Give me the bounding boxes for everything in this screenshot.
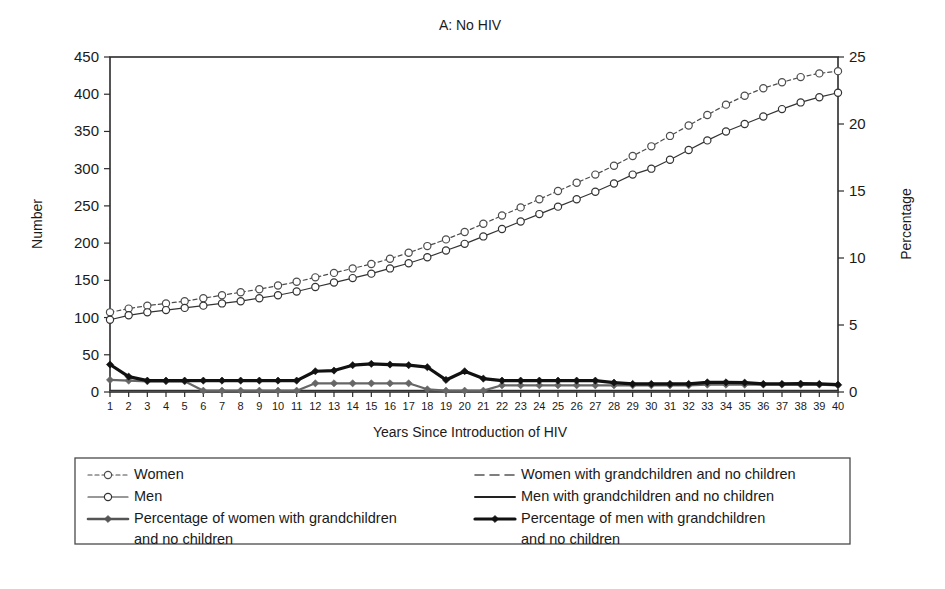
data-point-marker: [256, 286, 263, 293]
data-point-marker: [461, 240, 468, 247]
data-point-marker: [648, 165, 655, 172]
data-point-marker: [218, 300, 225, 307]
y-tick-label: 250: [74, 197, 99, 214]
x-tick-label: 6: [200, 400, 206, 412]
x-tick-label: 7: [219, 400, 225, 412]
x-tick-label: 28: [608, 400, 620, 412]
data-point-marker: [461, 228, 468, 235]
legend-label: Women with grandchildren and no children: [521, 466, 796, 482]
data-point-marker: [162, 307, 169, 314]
data-point-marker: [274, 282, 281, 289]
y-tick-label-right: 0: [849, 383, 857, 400]
data-point-marker: [144, 309, 151, 316]
x-tick-label: 5: [182, 400, 188, 412]
data-point-marker: [480, 233, 487, 240]
y-tick-label: 300: [74, 160, 99, 177]
x-tick-label: 34: [720, 400, 732, 412]
data-point-marker: [610, 162, 617, 169]
x-tick-label: 26: [571, 400, 583, 412]
data-point-marker: [293, 288, 300, 295]
y-tick-label: 400: [74, 85, 99, 102]
data-point-marker: [741, 120, 748, 127]
data-point-marker: [592, 171, 599, 178]
y-tick-label-right: 15: [849, 182, 866, 199]
y-tick-label-right: 5: [849, 316, 857, 333]
data-point-marker: [330, 279, 337, 286]
x-tick-label: 11: [291, 400, 302, 412]
data-point-marker: [237, 289, 244, 296]
data-point-marker: [629, 152, 636, 159]
data-point-marker: [386, 255, 393, 262]
data-point-marker: [312, 283, 319, 290]
data-point-marker: [554, 187, 561, 194]
data-point-marker: [741, 92, 748, 99]
x-tick-label: 37: [776, 400, 788, 412]
x-tick-label: 21: [477, 400, 489, 412]
data-point-marker: [330, 269, 337, 276]
legend-label: Percentage of women with grandchildren: [134, 510, 397, 526]
x-tick-label: 27: [589, 400, 601, 412]
x-tick-label: 12: [309, 400, 321, 412]
x-tick-label: 23: [515, 400, 527, 412]
x-tick-label: 36: [757, 400, 769, 412]
data-point-marker: [498, 212, 505, 219]
x-tick-label: 13: [328, 400, 340, 412]
data-point-marker: [573, 196, 580, 203]
data-point-marker: [480, 220, 487, 227]
x-tick-label: 32: [683, 400, 695, 412]
y-tick-label: 50: [82, 346, 99, 363]
data-point-marker: [274, 292, 281, 299]
data-point-marker: [666, 132, 673, 139]
data-point-marker: [816, 94, 823, 101]
data-point-marker: [386, 265, 393, 272]
data-point-marker: [704, 111, 711, 118]
data-point-marker: [536, 210, 543, 217]
y-tick-label: 0: [91, 383, 99, 400]
data-point-marker: [517, 204, 524, 211]
data-point-marker: [200, 302, 207, 309]
x-tick-label: 3: [144, 400, 150, 412]
x-tick-label: 24: [533, 400, 545, 412]
data-point-marker: [816, 70, 823, 77]
data-point-marker: [368, 270, 375, 277]
legend-label-cont: and no children: [134, 531, 233, 547]
data-point-marker: [424, 242, 431, 249]
x-tick-label: 29: [627, 400, 639, 412]
data-point-marker: [797, 74, 804, 81]
x-tick-label: 30: [645, 400, 657, 412]
x-tick-label: 17: [403, 400, 415, 412]
data-point-marker: [405, 260, 412, 267]
data-point-marker: [573, 179, 580, 186]
data-point-marker: [592, 188, 599, 195]
data-point-marker: [200, 295, 207, 302]
data-point-marker: [312, 274, 319, 281]
chart-title: A: No HIV: [439, 17, 502, 33]
data-point-marker: [722, 101, 729, 108]
y-tick-label: 100: [74, 309, 99, 326]
x-tick-label: 18: [421, 400, 433, 412]
data-point-marker: [834, 89, 841, 96]
x-tick-label: 25: [552, 400, 564, 412]
y-tick-label: 200: [74, 234, 99, 251]
data-point-marker: [293, 278, 300, 285]
data-point-marker: [722, 128, 729, 135]
data-point-marker: [349, 275, 356, 282]
x-tick-label: 14: [347, 400, 359, 412]
y-axis-title-percentage: Percentage: [898, 188, 914, 260]
x-tick-label: 10: [272, 400, 284, 412]
legend-label: Men with grandchildren and no children: [521, 488, 774, 504]
legend-label: Percentage of men with grandchildren: [521, 510, 765, 526]
x-tick-label: 19: [440, 400, 452, 412]
data-point-marker: [237, 298, 244, 305]
legend-label: Women: [134, 466, 184, 482]
x-tick-label: 38: [795, 400, 807, 412]
data-point-marker: [104, 493, 111, 500]
x-tick-label: 40: [832, 400, 844, 412]
y-tick-label-right: 25: [849, 48, 866, 65]
y-tick-label: 450: [74, 48, 99, 65]
data-point-marker: [368, 260, 375, 267]
data-point-marker: [685, 146, 692, 153]
data-point-marker: [498, 225, 505, 232]
data-point-marker: [760, 113, 767, 120]
data-point-marker: [442, 247, 449, 254]
